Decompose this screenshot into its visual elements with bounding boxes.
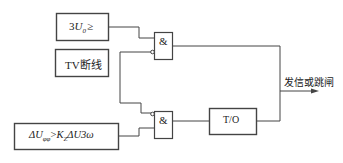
inverter-bubble-and2 [151,112,155,116]
label-and-gate-1: & [159,35,168,47]
label-zero-seq-voltage: 3U0 ≥ [69,20,93,35]
wire-deltau-to-and2 [118,128,154,136]
label-part: ΔU3ω [67,129,93,140]
arrow-head-icon [311,89,319,94]
label-tv-disconnect: TV断线 [65,56,102,72]
label-output: 发信或跳闸 [284,74,334,89]
wire-3u0-to-and1 [108,27,154,38]
label-and-gate-2: & [159,114,168,126]
label-part: ≥ [87,20,93,32]
wire-and1-out [172,46,280,91]
label-part: 0 [82,27,86,35]
wire-tv-to-and2 [120,63,151,113]
wire-timer-out [256,91,280,121]
label-part: ΔU [29,129,43,140]
label-delta-u: ΔUφφ>KZΔU3ω [29,129,94,143]
wire-tv-to-and1 [120,52,151,63]
inverter-bubble-and1 [151,50,155,54]
label-part: φφ [43,135,51,143]
label-timer: T/O [223,114,239,125]
